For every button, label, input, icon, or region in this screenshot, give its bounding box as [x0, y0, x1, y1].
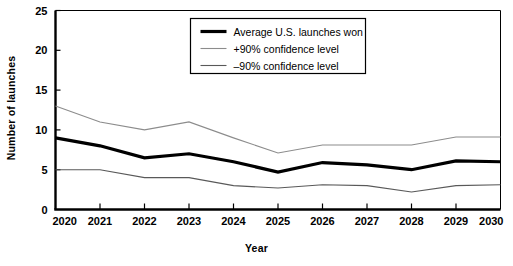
data-series-layer — [56, 106, 501, 192]
y-tick-label: 0 — [41, 204, 47, 216]
y-axis-ticks: 0510152025 — [35, 5, 60, 216]
chart-container: Number of launches 0510152025 2020202120… — [0, 0, 513, 266]
chart-legend: Average U.S. launches won+90% confidence… — [191, 19, 366, 74]
x-tick-label: 2026 — [310, 215, 334, 227]
x-tick-label: 2028 — [399, 215, 423, 227]
x-axis-title: Year — [0, 238, 513, 256]
y-tick-label: 10 — [35, 124, 47, 136]
y-tick-label: 15 — [35, 84, 47, 96]
y-tick-label: 5 — [41, 164, 47, 176]
y-tick-label: 25 — [35, 5, 47, 17]
x-tick-label: 2023 — [177, 215, 201, 227]
series-line — [56, 138, 501, 172]
y-tick-label: 20 — [35, 44, 47, 56]
x-tick-label: 2020 — [53, 215, 77, 227]
x-tick-label: 2022 — [132, 215, 156, 227]
x-axis-title-text: Year — [245, 242, 268, 254]
y-axis-title: Number of launches — [0, 0, 22, 215]
x-axis-ticks: 2020202120222023202420252026202720282029… — [53, 204, 504, 227]
x-tick-label: 2027 — [355, 215, 379, 227]
series-line — [56, 106, 501, 153]
legend-label: +90% confidence level — [234, 43, 339, 55]
x-tick-label: 2024 — [221, 215, 246, 227]
legend-label: –90% confidence level — [234, 60, 339, 72]
x-tick-label: 2021 — [88, 215, 112, 227]
line-chart-plot: 0510152025 20202021202220232024202520262… — [0, 0, 513, 266]
legend-label: Average U.S. launches won — [234, 26, 364, 38]
x-tick-label: 2029 — [444, 215, 468, 227]
y-axis-title-text: Number of launches — [5, 55, 17, 160]
x-tick-label: 2030 — [479, 215, 503, 227]
x-tick-label: 2025 — [266, 215, 290, 227]
